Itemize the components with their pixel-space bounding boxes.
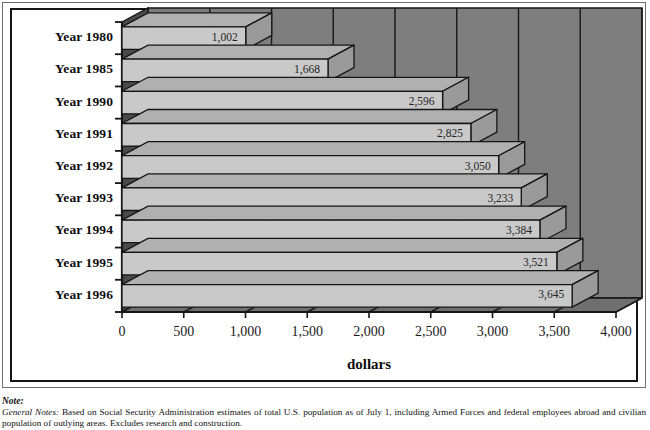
bar-value-label: 1,668 [258, 63, 320, 75]
x-axis-title: dollars [122, 356, 616, 373]
category-label-year-1990: Year 1990 [20, 95, 113, 109]
bar-value-label: 3,645 [502, 288, 564, 300]
bar-value-label: 1,002 [176, 31, 238, 43]
bar-value-label: 2,825 [401, 127, 463, 139]
category-label-year-1992: Year 1992 [20, 159, 113, 173]
category-label-year-1980: Year 1980 [20, 30, 113, 44]
note-label: General Notes: [2, 407, 59, 417]
bar-value-label: 3,521 [487, 256, 549, 268]
category-label-year-1991: Year 1991 [20, 127, 113, 141]
bar-value-label: 3,384 [470, 224, 532, 236]
bar-value-label: 2,596 [373, 95, 435, 107]
category-label-year-1993: Year 1993 [20, 191, 113, 205]
category-label-year-1994: Year 1994 [20, 223, 113, 237]
bar-value-label: 3,050 [429, 160, 491, 172]
category-label-year-1996: Year 1996 [20, 288, 113, 302]
chart-page: 1,002Year 19801,668Year 19852,596Year 19… [0, 0, 650, 430]
bar-value-label: 3,233 [451, 192, 513, 204]
note-heading: Note: [2, 396, 648, 407]
category-label-year-1995: Year 1995 [20, 256, 113, 270]
note-block: Note: General Notes: Based on Social Sec… [2, 396, 648, 430]
category-label-year-1985: Year 1985 [20, 62, 113, 76]
note-text: Based on Social Security Administration … [2, 407, 646, 428]
note-body: General Notes: Based on Social Security … [2, 407, 648, 428]
xtick-label-4000: 4,000 [576, 324, 650, 340]
